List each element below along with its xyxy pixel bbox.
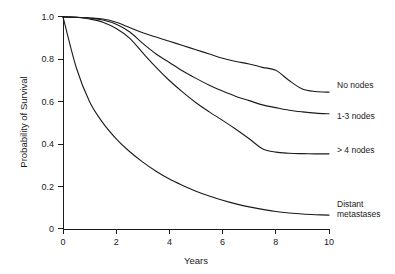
series-label-metastases: metastases — [337, 209, 380, 219]
y-axis-ticks — [58, 17, 63, 229]
y-tick-label-06: 0.6 — [41, 97, 54, 107]
y-tick-label-04: 0.4 — [41, 139, 54, 149]
x-tick-label-4: 4 — [167, 237, 172, 247]
series-label-1-3-nodes: 1-3 nodes — [337, 111, 375, 121]
curve-gt-4-nodes — [63, 17, 329, 154]
x-tick-label-10: 10 — [324, 237, 334, 247]
series-label-distant: Distant — [337, 199, 364, 209]
y-tick-label-0: 0 — [49, 224, 54, 234]
curve-no-nodes — [63, 17, 329, 92]
x-tick-label-8: 8 — [273, 237, 278, 247]
x-tick-label-6: 6 — [220, 237, 225, 247]
x-tick-label-0: 0 — [60, 237, 65, 247]
y-tick-label-08: 0.8 — [41, 54, 54, 64]
survival-chart: 1.0 0.8 0.6 0.4 0.2 0 0 2 4 6 8 10 Proba… — [0, 0, 395, 274]
x-axis-title: Years — [184, 255, 208, 266]
curve-distant-metastases — [63, 17, 329, 215]
x-axis-ticks — [63, 229, 329, 234]
y-tick-label-02: 0.2 — [41, 182, 54, 192]
series-label-gt-4-nodes: > 4 nodes — [337, 145, 375, 155]
survival-plot-svg: 1.0 0.8 0.6 0.4 0.2 0 0 2 4 6 8 10 Proba… — [0, 0, 395, 274]
y-axis-title: Probability of Survival — [18, 76, 29, 167]
curve-1-3-nodes — [63, 17, 329, 114]
y-tick-label-1: 1.0 — [41, 12, 54, 22]
series-label-no-nodes: No nodes — [337, 80, 373, 90]
curve-group — [63, 17, 329, 215]
x-tick-label-2: 2 — [114, 237, 119, 247]
